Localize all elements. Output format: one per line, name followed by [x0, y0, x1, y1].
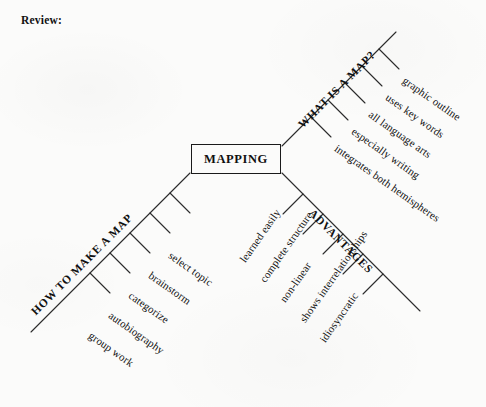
central-node-label: MAPPING: [204, 152, 268, 167]
central-node: MAPPING: [191, 144, 281, 174]
scanned-page: Review:: [0, 0, 486, 407]
spine-how-to-make-a-map: [31, 173, 190, 332]
